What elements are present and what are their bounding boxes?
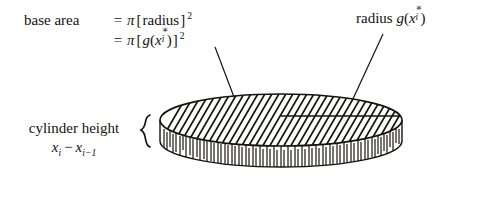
radius-label-word: radius <box>356 10 393 26</box>
cylinder-height-label: cylinder height xi−xi−1 <box>10 120 138 158</box>
base-area-rhs-1: π[radius]2 <box>126 10 192 29</box>
base-area-equals-1: = <box>110 12 126 29</box>
star-sub-i-1: ∗i <box>162 30 167 45</box>
exponent-2: 2 <box>180 30 185 41</box>
height-brace <box>141 115 150 147</box>
minus-sign: − <box>61 139 75 155</box>
figure-canvas: base area = π[radius]2 = π[g(x∗i)]2 radi… <box>0 0 490 203</box>
variable-x-2: x <box>409 10 416 26</box>
variable-x-1: x <box>155 32 162 48</box>
function-g-1: g <box>143 32 151 48</box>
base-area-rhs-2: π[g(x∗i)]2 <box>126 30 184 49</box>
bracket-open-2: [ <box>136 32 143 48</box>
bracket-open-1: [ <box>136 12 143 28</box>
leader-line-radius <box>352 34 383 101</box>
pi-symbol-2: π <box>126 32 136 48</box>
base-area-equals-2: = <box>110 32 126 49</box>
subscript-i-2: i <box>416 12 419 23</box>
base-area-lhs: base area <box>24 12 110 29</box>
radius-label: radius g(x∗i) <box>356 8 426 27</box>
base-area-equation: base area = π[radius]2 = π[g(x∗i)]2 <box>24 10 192 50</box>
cylinder-height-line-2: xi−xi−1 <box>10 139 138 158</box>
bracket-close-1: ] <box>179 12 186 28</box>
subscript-i-minus-1: i−1 <box>82 147 96 158</box>
base-area-equation-line-2: = π[g(x∗i)]2 <box>24 30 192 50</box>
pi-symbol-1: π <box>126 12 136 28</box>
subscript-i-1: i <box>162 34 165 45</box>
exponent-1: 2 <box>187 10 192 21</box>
function-g-2: g <box>396 10 404 26</box>
leader-line-base-area <box>215 47 234 97</box>
star-sub-i-2: ∗i <box>416 8 421 23</box>
cylinder-height-line-1: cylinder height <box>10 120 138 137</box>
bracket-close-2: ] <box>172 32 179 48</box>
